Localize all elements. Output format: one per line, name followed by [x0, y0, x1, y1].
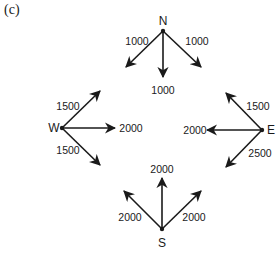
flow-value-s-n: 2000: [150, 163, 174, 175]
flow-value-n-s: 1000: [151, 84, 175, 96]
flow-value-e-sw: 2500: [248, 147, 272, 159]
intersection-flow-diagram: (c) N W E S 1000 1000 1000 1500 2000 150…: [0, 0, 276, 256]
flow-value-e-nw: 1500: [246, 100, 270, 112]
node-south-label: S: [158, 236, 166, 250]
flow-arrow-s-nw: [124, 191, 162, 229]
flow-value-s-ne: 2000: [182, 211, 206, 223]
panel-label: (c): [4, 2, 20, 18]
node-east-label: E: [267, 123, 275, 137]
flow-value-w-se: 1500: [56, 144, 80, 156]
node-north-label: N: [159, 14, 168, 28]
flow-value-s-nw: 2000: [118, 211, 142, 223]
flow-arrow-s-ne: [162, 191, 201, 229]
flow-value-w-ne: 1500: [56, 100, 80, 112]
flow-value-w-e: 2000: [119, 122, 143, 134]
node-west-label: W: [48, 121, 60, 135]
flow-value-n-se: 1000: [185, 35, 209, 47]
flow-value-n-sw: 1000: [125, 35, 149, 47]
flow-value-e-w: 2000: [183, 124, 207, 136]
